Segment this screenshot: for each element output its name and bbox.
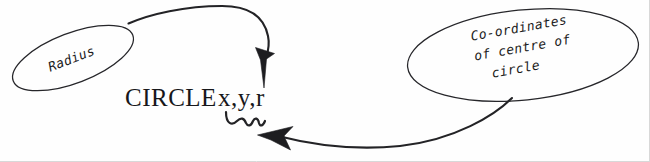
radius-arrow-curve — [129, 6, 269, 58]
xy-squiggle — [226, 112, 265, 125]
coordinates-arrow — [258, 98, 513, 150]
command-line: CIRCLE x,y,r — [125, 84, 265, 111]
radius-arrow — [129, 6, 275, 88]
coordinates-text-group: Co-ordinates of centre of circle — [469, 12, 575, 83]
callout-radius: Radius — [4, 12, 141, 105]
command-keyword: CIRCLE — [125, 84, 217, 111]
radius-arrow-head — [256, 48, 275, 89]
coordinates-ellipse — [403, 0, 643, 112]
coordinates-label-line-3: circle — [491, 57, 542, 80]
diagram-canvas: Radius CIRCLE x,y,r Co-ordinates of cent… — [0, 0, 650, 162]
command-arguments: x,y,r — [218, 84, 265, 111]
circle-syntax-diagram: Radius CIRCLE x,y,r Co-ordinates of cent… — [0, 0, 650, 162]
callout-radius-label: Radius — [46, 43, 97, 74]
coordinates-arrow-curve — [278, 98, 512, 148]
callout-coordinates: Co-ordinates of centre of circle — [403, 0, 643, 112]
